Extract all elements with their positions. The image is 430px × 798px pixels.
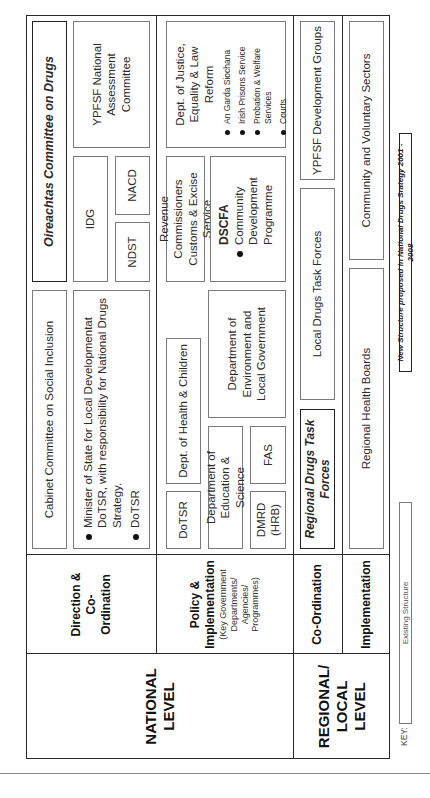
level-regional: REGIONAL/ LOCAL LEVEL — [293, 654, 390, 759]
oireachtas-label: Oireachtas Committee on Drugs — [42, 56, 58, 247]
box-dotsr: DoTSR — [166, 491, 201, 549]
row-label-policy-sub: (Key Government Departments/ Agencies/ P… — [218, 559, 261, 650]
justice-bullet: Probation & Welfare Services — [252, 44, 274, 137]
box-community-voluntary: Community and Voluntary Sectors — [349, 21, 384, 260]
dscfa-bullet: Community Development Programme — [232, 155, 275, 259]
justice-bullet-list: An Garda Siochana Irish Prisons Service … — [222, 44, 289, 141]
minister-bullet: DoTSR — [128, 297, 142, 542]
box-regional-health-boards: Regional Health Boards — [349, 268, 384, 549]
box-dmrd: DMRD (HRB) — [250, 491, 286, 549]
box-dept-environment: Department of Environment and Local Gove… — [208, 290, 286, 418]
row-label-direction: Direction & Co-Ordination — [26, 555, 156, 654]
row-label-coordination: Co-Ordination — [293, 555, 342, 654]
row-label-policy: Policy & Implementation (Key Government … — [156, 555, 293, 654]
rotated-page: NATIONAL LEVEL REGIONAL/ LOCAL LEVEL Dir… — [0, 0, 430, 798]
box-oireachtas-committee: Oireachtas Committee on Drugs — [32, 21, 67, 282]
key-label: KEY: — [399, 727, 409, 746]
box-nacd: NACD — [115, 156, 150, 215]
box-cabinet-committee: Cabinet Committee on Social Inclusion — [32, 290, 67, 549]
box-idg: IDG — [73, 156, 108, 282]
dscfa-bullet-list: Community Development Programme — [232, 155, 275, 259]
box-ypfsf-development-groups: YPFSF Development Groups — [300, 21, 335, 180]
key-new-structure: New Structure proposed in National Drugs… — [399, 133, 412, 372]
page-rule — [0, 773, 430, 774]
justice-bullet: Courts — [278, 44, 289, 137]
box-dept-justice: Dept. of Justice, Equality & Law Reform … — [166, 21, 286, 148]
box-fas: FAS — [250, 426, 286, 484]
justice-bullet: Irish Prisons Service — [237, 44, 248, 137]
level-national: NATIONAL LEVEL — [26, 654, 293, 759]
minister-bullet: Minister of State for Local Developmenta… — [81, 297, 124, 542]
box-dept-education: Department of Education & Science — [208, 426, 243, 549]
box-local-drugs-task-forces: Local Drugs Task Forces — [300, 188, 335, 400]
box-ndst: NDST — [115, 222, 150, 282]
key-existing-structure: Existing Structure — [399, 502, 412, 724]
row-label-implementation: Implementation — [342, 555, 390, 654]
box-dscfa: DSCFA Community Development Programme — [210, 156, 286, 282]
box-dept-health: Dept. of Health & Children — [166, 338, 201, 484]
box-ypfsf-assessment: YPFSF National Assessment Committee — [73, 21, 150, 148]
box-regional-drugs-task-forces: Regional Drugs Task Forces — [300, 409, 335, 549]
minister-bullet-list: Minister of State for Local Developmenta… — [81, 297, 143, 542]
justice-bullet: An Garda Siochana — [222, 44, 233, 137]
dscfa-title: DSCFA — [217, 204, 232, 259]
row-label-policy-title: Policy & Implementation — [188, 559, 218, 650]
box-minister: Minister of State for Local Developmenta… — [73, 290, 150, 549]
box-revenue: Revenue Commissioners Customs & Excise S… — [166, 156, 205, 282]
regional-drugs-task-forces-label: Regional Drugs Task Forces — [303, 410, 333, 548]
justice-title: Dept. of Justice, Equality & Law Reform — [173, 28, 216, 141]
